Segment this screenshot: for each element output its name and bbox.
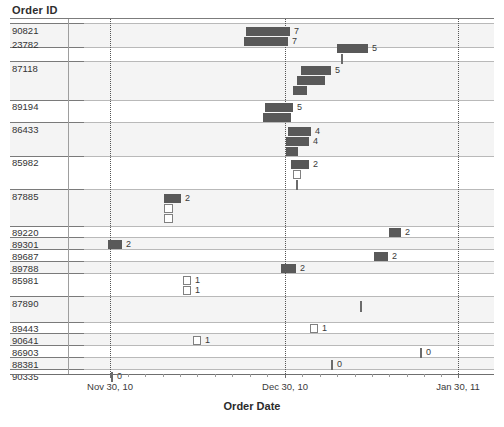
gantt-bar[interactable]	[288, 127, 311, 136]
bar-value-label: 5	[297, 102, 302, 112]
gantt-bar[interactable]	[244, 37, 288, 46]
gantt-bar[interactable]	[296, 180, 298, 190]
row-label[interactable]: 90821	[12, 25, 38, 36]
x-axis-tick	[110, 374, 111, 378]
gantt-bar[interactable]	[389, 228, 401, 237]
x-axis-minor-tick	[320, 374, 321, 377]
x-axis-minor-tick	[267, 374, 268, 377]
x-axis-tick-label: Jan 30, 11	[436, 381, 480, 392]
gantt-chart: Order ID 9082177237825871185891945864334…	[0, 0, 504, 427]
bar-value-label: 2	[313, 159, 318, 169]
row-label[interactable]: 87885	[12, 191, 38, 202]
bar-value-label: 2	[405, 227, 410, 237]
gantt-bar[interactable]	[164, 214, 173, 223]
row-label[interactable]: 87118	[12, 63, 38, 74]
row-label[interactable]: 87890	[12, 298, 38, 309]
gantt-bar[interactable]	[291, 160, 309, 169]
bar-value-label: 1	[322, 323, 327, 333]
row-band	[10, 122, 494, 156]
row-label[interactable]: 89194	[12, 101, 38, 112]
x-axis-minor-tick	[250, 374, 251, 377]
gantt-bar[interactable]	[183, 276, 191, 285]
gantt-bar[interactable]	[301, 66, 331, 75]
row-label[interactable]: 90335	[12, 371, 38, 382]
x-axis-minor-tick	[355, 374, 356, 377]
x-axis-tick-label: Dec 30, 10	[262, 381, 308, 392]
gantt-bar[interactable]	[297, 76, 325, 85]
bar-value-label: 0	[117, 371, 122, 381]
gantt-bar[interactable]	[164, 204, 173, 213]
gantt-bar[interactable]	[281, 264, 296, 273]
bar-value-label: 1	[195, 285, 200, 295]
label-column-divider	[68, 19, 69, 374]
x-axis-minor-tick	[372, 374, 373, 377]
row-label[interactable]: 89788	[12, 263, 38, 274]
gantt-bar[interactable]	[183, 286, 191, 295]
row-label[interactable]: 89443	[12, 323, 38, 334]
gantt-bar[interactable]	[420, 348, 422, 358]
gantt-bar[interactable]	[263, 113, 291, 122]
gantt-bar[interactable]	[374, 252, 388, 261]
x-axis-minor-tick	[424, 374, 425, 377]
gantt-bar[interactable]	[193, 336, 201, 345]
row-label[interactable]: 23782	[12, 39, 38, 50]
row-label[interactable]: 86903	[12, 347, 38, 358]
gantt-bar[interactable]	[293, 170, 301, 179]
x-axis-minor-tick	[389, 374, 390, 377]
row-label-divider	[10, 122, 84, 123]
bar-value-label: 5	[372, 43, 377, 53]
row-band	[10, 357, 494, 369]
bar-value-label: 5	[335, 65, 340, 75]
x-axis-minor-tick	[163, 374, 164, 377]
gantt-bar[interactable]	[286, 147, 298, 156]
row-label[interactable]: 89687	[12, 251, 38, 262]
gridline	[285, 19, 286, 374]
bar-value-label: 1	[195, 275, 200, 285]
row-label-header: Order ID	[12, 4, 58, 16]
gantt-bar[interactable]	[265, 103, 293, 112]
x-axis-minor-tick	[302, 374, 303, 377]
gantt-bar[interactable]	[331, 360, 333, 370]
row-label-divider	[10, 23, 84, 24]
plot-area: 9082177237825871185891945864334485982287…	[10, 19, 494, 374]
row-band	[10, 189, 494, 226]
x-axis-minor-tick	[407, 374, 408, 377]
x-axis-tick	[285, 374, 286, 378]
gantt-bar[interactable]	[310, 324, 318, 333]
bar-value-label: 1	[205, 335, 210, 345]
gantt-bar[interactable]	[286, 137, 309, 146]
row-band	[10, 296, 494, 322]
x-axis-minor-tick	[128, 374, 129, 377]
bar-value-label: 0	[426, 347, 431, 357]
gantt-bar[interactable]	[246, 27, 290, 36]
x-axis-minor-tick	[232, 374, 233, 377]
row-band	[10, 333, 494, 345]
bar-value-label: 2	[126, 239, 131, 249]
x-axis-minor-tick	[197, 374, 198, 377]
row-band	[10, 61, 494, 100]
x-axis-minor-tick	[441, 374, 442, 377]
row-label[interactable]: 85982	[12, 157, 38, 168]
row-label[interactable]: 88381	[12, 359, 38, 370]
x-axis-minor-tick	[145, 374, 146, 377]
x-axis-minor-tick	[180, 374, 181, 377]
x-axis-tick-label: Nov 30, 10	[87, 381, 133, 392]
row-band	[10, 237, 494, 249]
gantt-bar[interactable]	[360, 301, 362, 312]
gantt-bar[interactable]	[341, 54, 343, 64]
row-label[interactable]: 86433	[12, 124, 38, 135]
gantt-bar[interactable]	[293, 86, 307, 95]
bar-value-label: 7	[294, 26, 299, 36]
x-axis-minor-tick	[337, 374, 338, 377]
row-label[interactable]: 90641	[12, 335, 38, 346]
row-label[interactable]: 85981	[12, 275, 38, 286]
gantt-bar[interactable]	[164, 194, 181, 203]
gantt-bar[interactable]	[108, 240, 122, 249]
gantt-bar[interactable]	[337, 44, 368, 53]
row-label[interactable]: 89220	[12, 227, 38, 238]
gridline	[110, 19, 111, 374]
x-axis-title: Order Date	[0, 400, 504, 412]
row-label[interactable]: 89301	[12, 239, 38, 250]
x-axis-line	[10, 374, 494, 375]
bar-value-label: 4	[315, 126, 320, 136]
